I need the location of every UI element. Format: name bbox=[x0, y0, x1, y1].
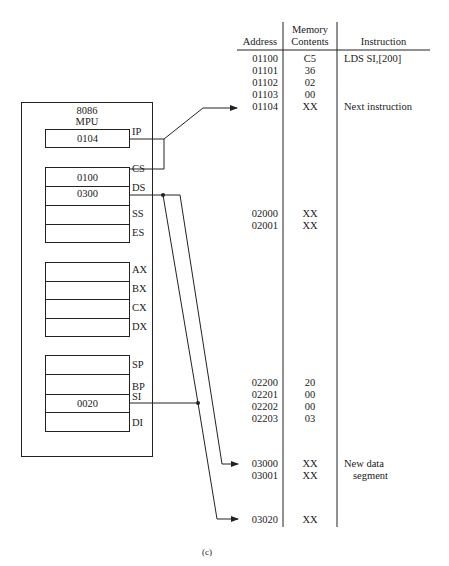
row-address: 01102 bbox=[240, 77, 278, 89]
row-contents: XX bbox=[283, 101, 337, 113]
register-ds: 0300 bbox=[45, 186, 130, 206]
row-address: 02202 bbox=[240, 401, 278, 413]
row-contents: C5 bbox=[283, 53, 337, 65]
header-contents-line1: Memory bbox=[283, 24, 337, 36]
register-ss-label: SS bbox=[132, 208, 144, 220]
row-contents: 02 bbox=[283, 77, 337, 89]
row-contents: 03 bbox=[283, 413, 337, 425]
row-address: 02000 bbox=[240, 208, 278, 220]
register-ip: 0104 bbox=[45, 129, 130, 148]
row-address: 01104 bbox=[240, 101, 278, 113]
register-sp-label: SP bbox=[132, 359, 144, 371]
row-address: 02001 bbox=[240, 220, 278, 232]
row-address: 01103 bbox=[240, 89, 278, 101]
row-address: 03001 bbox=[240, 470, 278, 482]
row-contents: 00 bbox=[283, 89, 337, 101]
register-si: 0020 bbox=[45, 394, 130, 413]
register-cs: 0100 bbox=[45, 167, 130, 187]
row-address: 03020 bbox=[240, 514, 278, 526]
register-es-label: ES bbox=[132, 227, 144, 239]
row-address: 02201 bbox=[240, 389, 278, 401]
register-cx bbox=[45, 299, 130, 319]
register-si-label: SI bbox=[132, 391, 141, 403]
row-contents: 36 bbox=[283, 65, 337, 77]
row-address: 01101 bbox=[240, 65, 278, 77]
row-contents: 20 bbox=[283, 377, 337, 389]
register-ax bbox=[45, 262, 130, 282]
row-contents: XX bbox=[283, 514, 337, 526]
register-ip-value: 0104 bbox=[46, 133, 129, 144]
row-contents: XX bbox=[283, 208, 337, 220]
register-bx bbox=[45, 281, 130, 300]
register-cs-label: CS bbox=[132, 163, 145, 175]
row-contents: 00 bbox=[283, 401, 337, 413]
register-si-value: 0020 bbox=[46, 398, 129, 409]
register-cx-label: CX bbox=[132, 302, 147, 314]
row-contents: XX bbox=[283, 470, 337, 482]
register-di bbox=[45, 412, 130, 432]
row-address: 03000 bbox=[240, 458, 278, 470]
register-bp bbox=[45, 374, 130, 395]
row-address: 01100 bbox=[240, 53, 278, 65]
row-instruction: New data bbox=[344, 458, 384, 470]
row-instruction: Next instruction bbox=[344, 101, 412, 113]
register-ds-value: 0300 bbox=[46, 188, 129, 199]
register-ip-label: IP bbox=[132, 126, 141, 138]
register-dx-label: DX bbox=[132, 321, 147, 333]
figure-caption: (c) bbox=[195, 546, 219, 558]
header-contents-line2: Contents bbox=[283, 36, 337, 48]
row-instruction: segment bbox=[353, 470, 388, 482]
register-bx-label: BX bbox=[132, 283, 147, 295]
register-es bbox=[45, 224, 130, 243]
row-address: 02203 bbox=[240, 413, 278, 425]
register-ss bbox=[45, 205, 130, 225]
row-contents: 00 bbox=[283, 389, 337, 401]
row-instruction: LDS SI,[200] bbox=[344, 53, 401, 65]
row-address: 02200 bbox=[240, 377, 278, 389]
row-contents: XX bbox=[283, 458, 337, 470]
header-address: Address bbox=[237, 36, 283, 48]
register-dx bbox=[45, 318, 130, 337]
row-contents: XX bbox=[283, 220, 337, 232]
register-di-label: DI bbox=[132, 417, 143, 429]
register-cs-value: 0100 bbox=[46, 172, 129, 183]
register-ax-label: AX bbox=[132, 264, 147, 276]
register-sp bbox=[45, 355, 130, 375]
register-ds-label: DS bbox=[132, 182, 145, 194]
header-instruction: Instruction bbox=[337, 36, 430, 48]
